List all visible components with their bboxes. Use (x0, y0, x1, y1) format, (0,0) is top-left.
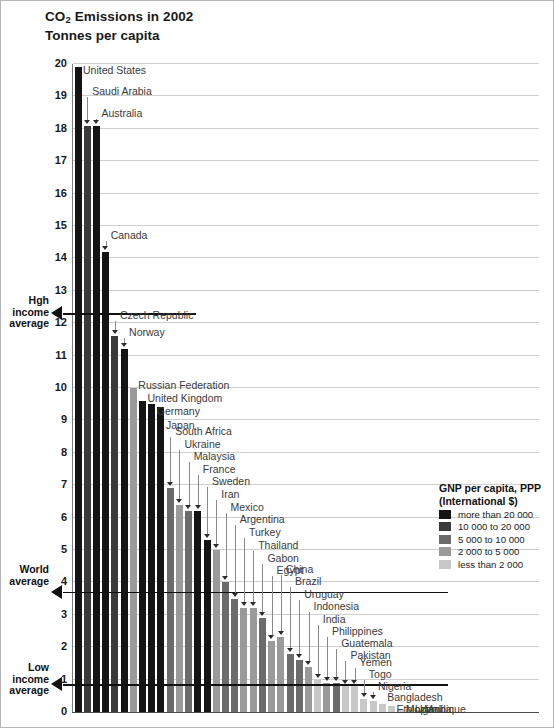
bar[interactable] (379, 704, 386, 712)
country-label: Mexico (231, 501, 264, 513)
leader-arrowhead (259, 612, 265, 616)
leader-line (207, 487, 208, 534)
leader-arrowhead (93, 120, 99, 124)
country-label: Norway (129, 326, 165, 338)
country-label: France (203, 463, 236, 475)
bar[interactable] (268, 641, 275, 712)
leader-line (364, 680, 365, 693)
country-label: South Africa (175, 425, 232, 437)
average-label-line: Hgh (1, 295, 49, 307)
legend-swatch (439, 547, 451, 556)
chart-frame: CO2 Emissions in 2002 Tonnes per capita … (0, 0, 554, 728)
bar[interactable] (296, 660, 303, 712)
leader-arrowhead (342, 680, 348, 684)
bar[interactable] (167, 488, 174, 712)
leader-arrowhead (333, 677, 339, 681)
bar[interactable] (75, 67, 82, 712)
average-arrow-world (51, 585, 62, 599)
leader-arrowhead (305, 661, 311, 665)
bar[interactable] (342, 686, 349, 712)
bar[interactable] (93, 126, 100, 712)
leader-arrowhead (185, 505, 191, 509)
y-tick-label: 2 (37, 640, 67, 652)
country-label: Brazil (295, 575, 321, 587)
legend: GNP per capita, PPP (International $) mo… (439, 482, 551, 570)
leader-arrowhead (315, 674, 321, 678)
bar[interactable] (305, 667, 312, 712)
bar[interactable] (130, 388, 137, 712)
leader-line (226, 513, 227, 576)
bar[interactable] (157, 407, 164, 712)
country-label: Ukraine (184, 438, 220, 450)
legend-title-line1: GNP per capita, PPP (439, 482, 551, 495)
bar[interactable] (240, 608, 247, 712)
y-tick-label: 6 (37, 511, 67, 523)
leader-line (290, 587, 291, 648)
average-label-high_income: Hghincomeaverage (1, 295, 49, 330)
legend-item[interactable]: less than 2 000 (439, 559, 551, 570)
leader-arrowhead (112, 330, 118, 334)
leader-line (170, 437, 171, 482)
country-label: India (323, 613, 346, 625)
bar[interactable] (351, 686, 358, 712)
bar[interactable] (333, 683, 340, 712)
legend-swatch (439, 535, 451, 544)
bar[interactable] (222, 582, 229, 712)
legend-label: 2 000 to 5 000 (458, 546, 519, 557)
bar[interactable] (111, 336, 118, 712)
bar[interactable] (121, 349, 128, 712)
bar[interactable] (102, 252, 109, 712)
country-label: Guatemala (341, 637, 392, 649)
bar[interactable] (139, 401, 146, 712)
y-tick-label: 9 (37, 413, 67, 425)
y-tick-label: 19 (37, 89, 67, 101)
leader-line (281, 575, 282, 631)
bar[interactable] (231, 599, 238, 712)
bar[interactable] (148, 404, 155, 712)
country-label: Indonesia (314, 600, 360, 612)
leader-arrowhead (102, 246, 108, 250)
country-label: Togo (369, 668, 392, 680)
y-tick-label: 10 (37, 381, 67, 393)
leader-arrowhead (176, 499, 182, 503)
bar[interactable] (204, 540, 211, 712)
leader-line (318, 625, 319, 674)
legend-title-line2: (International $) (439, 495, 551, 508)
leader-line (235, 525, 236, 593)
country-label: Germany (157, 405, 200, 417)
bar[interactable] (370, 701, 377, 712)
leader-line (216, 500, 217, 544)
y-tick-label: 5 (37, 543, 67, 555)
bar[interactable] (194, 511, 201, 712)
country-label: Uruguay (304, 588, 344, 600)
bar[interactable] (277, 637, 284, 712)
gridline (73, 160, 539, 161)
y-tick-label: 7 (37, 478, 67, 490)
legend-item[interactable]: more than 20 000 (439, 509, 551, 520)
leader-line (336, 649, 337, 677)
bar[interactable] (287, 654, 294, 712)
country-label: Canada (111, 229, 148, 241)
leader-line (253, 551, 254, 602)
y-tick-label: 15 (37, 219, 67, 231)
country-label: Mali (424, 703, 443, 715)
leader-line (189, 462, 190, 505)
country-label: Argentina (240, 513, 285, 525)
country-label: Saudi Arabia (92, 85, 152, 97)
bar[interactable] (84, 126, 91, 712)
leader-line (198, 475, 199, 505)
bar[interactable] (388, 706, 395, 712)
bar[interactable] (323, 683, 330, 712)
leader-arrowhead (232, 593, 238, 597)
bar[interactable] (360, 699, 367, 712)
bar[interactable] (176, 505, 183, 712)
legend-item[interactable]: 10 000 to 20 000 (439, 521, 551, 532)
bar[interactable] (213, 550, 220, 712)
legend-item[interactable]: 2 000 to 5 000 (439, 546, 551, 557)
legend-label: 5 000 to 10 000 (458, 534, 525, 545)
bar[interactable] (250, 608, 257, 712)
bar[interactable] (185, 511, 192, 712)
legend-item[interactable]: 5 000 to 10 000 (439, 534, 551, 545)
bar[interactable] (259, 618, 266, 712)
country-label: Thailand (258, 539, 298, 551)
